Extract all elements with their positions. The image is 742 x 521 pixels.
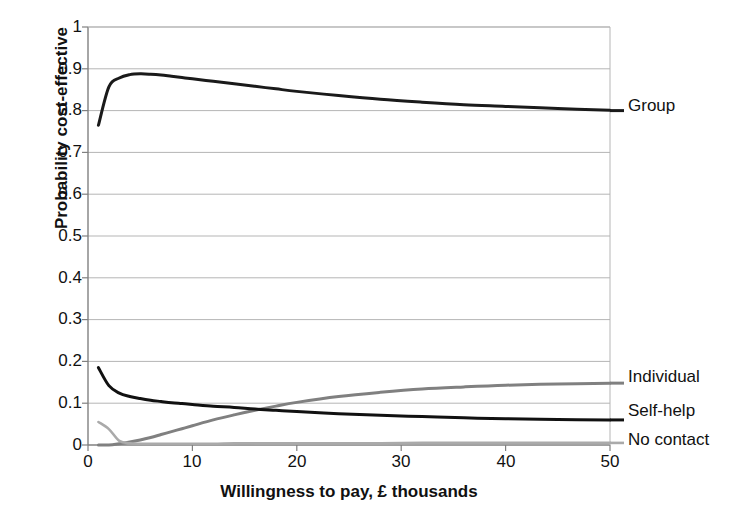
chart-figure: Probability cost-effective Willingness t… — [0, 0, 742, 521]
plot-area — [0, 0, 742, 521]
gridlines — [88, 27, 610, 403]
axis-ticks — [82, 27, 610, 451]
data-curves — [98, 74, 624, 445]
